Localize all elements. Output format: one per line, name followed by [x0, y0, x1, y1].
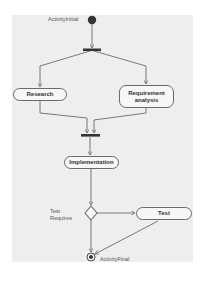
initial-node-label: ActivityInitial — [48, 16, 78, 23]
flow-requirement-analysis-to-join — [94, 108, 146, 133]
action-test[interactable]: Test — [136, 207, 192, 220]
flow-fork-to-research — [40, 51, 90, 87]
final-node-label: ActivityFinal — [100, 256, 129, 263]
action-implementation[interactable]: Implementation — [64, 156, 119, 169]
decision-node-icon — [85, 206, 97, 220]
flow-edges — [0, 0, 203, 281]
join-bar — [81, 134, 100, 137]
initial-node-icon — [88, 16, 96, 24]
flow-fork-to-requirement-analysis — [94, 51, 146, 84]
decision-guard-label: Test Requires — [50, 208, 76, 222]
final-node-inner-icon — [89, 255, 93, 259]
flow-research-to-join — [40, 101, 87, 133]
flow-test-to-final — [95, 221, 158, 254]
fork-bar — [83, 49, 101, 52]
action-requirement-analysis[interactable]: Requirement analysis — [119, 85, 174, 108]
action-research[interactable]: Research — [13, 88, 67, 101]
